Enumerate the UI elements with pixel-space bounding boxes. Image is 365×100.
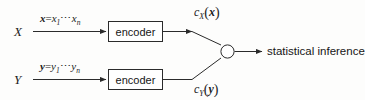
block-diagram: X Y x=x1⋯xn y=y1⋯yn encoder encoder cX(x… [0, 0, 365, 100]
wire-x-diagonal-to-junction [192, 32, 221, 46]
edge-label-x-input: x=x1⋯xn [40, 13, 81, 27]
wire-y-diagonal-to-junction [192, 58, 221, 80]
edge-label-x-dots: ⋯ [60, 12, 72, 24]
code-label-y: cY(y) [194, 83, 218, 98]
edge-label-y-dots: ⋯ [60, 60, 72, 72]
edge-label-y-input: y=y1⋯yn [40, 61, 80, 75]
code-label-y-close: ) [214, 82, 219, 97]
source-label-x: X [14, 25, 22, 38]
output-label: statistical inference [267, 46, 365, 58]
code-label-x-close: ) [215, 5, 220, 20]
encoder-box-x[interactable]: encoder [108, 21, 163, 42]
code-label-x: cX(x) [194, 6, 220, 21]
edge-label-y-last-sub: n [76, 66, 80, 75]
edge-label-x-last-sub: n [77, 18, 81, 27]
encoder-box-y-label: encoder [116, 74, 156, 86]
encoder-box-x-label: encoder [116, 26, 156, 38]
source-label-y: Y [14, 73, 21, 86]
encoder-box-y[interactable]: encoder [108, 69, 163, 90]
junction-circle [221, 45, 234, 58]
